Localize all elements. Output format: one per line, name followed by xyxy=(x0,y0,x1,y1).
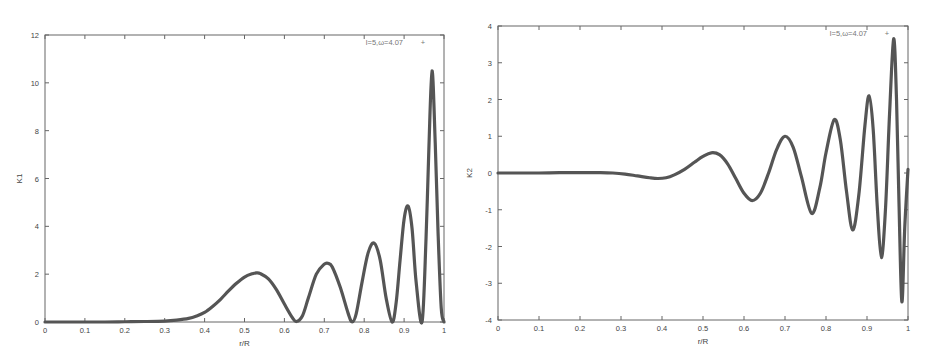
x-tick-label: 0.2 xyxy=(120,326,130,335)
x-axis-label: r/R xyxy=(239,339,250,348)
x-tick-label: 0.3 xyxy=(616,324,626,333)
y-tick-label: -4 xyxy=(485,316,492,325)
x-tick-label: 1 xyxy=(906,324,910,333)
y-axis-label: K2 xyxy=(465,168,474,178)
y-tick-label: 1 xyxy=(488,132,492,141)
y-tick-label: 0 xyxy=(488,169,492,178)
x-tick-label: 0.2 xyxy=(575,324,585,333)
data-series-line xyxy=(45,71,444,323)
data-series-line xyxy=(498,39,908,302)
y-tick-label: 3 xyxy=(488,59,492,68)
x-tick-label: 0.7 xyxy=(319,326,329,335)
x-tick-label: 0.7 xyxy=(780,324,790,333)
x-tick-label: 0.8 xyxy=(359,326,369,335)
x-tick-label: 0.6 xyxy=(279,326,289,335)
x-tick-label: 0.4 xyxy=(657,324,667,333)
x-tick-label: 0.1 xyxy=(534,324,544,333)
x-tick-label: 0.8 xyxy=(821,324,831,333)
x-tick-label: 0.9 xyxy=(399,326,409,335)
y-axis-label: K1 xyxy=(15,173,24,183)
x-tick-label: 0.6 xyxy=(739,324,749,333)
y-tick-label: 4 xyxy=(35,222,39,231)
y-tick-label: 6 xyxy=(35,175,39,184)
y-tick-label: 10 xyxy=(31,79,39,88)
x-tick-label: 0.1 xyxy=(80,326,90,335)
x-axis-label: r/R xyxy=(698,337,709,346)
x-tick-label: 0.9 xyxy=(862,324,872,333)
y-tick-label: 12 xyxy=(31,31,39,40)
y-tick-label: 8 xyxy=(35,127,39,136)
x-tick-label: 0.5 xyxy=(698,324,708,333)
legend-label: l=5,ω=4.07 xyxy=(830,29,867,38)
x-tick-label: 1 xyxy=(442,326,446,335)
y-tick-label: -2 xyxy=(485,243,492,252)
k2-plot-area: 00.10.20.30.40.50.60.70.80.91-4-3-2-1012… xyxy=(460,0,927,362)
k1-chart: 00.10.20.30.40.50.60.70.80.91024681012r/… xyxy=(0,0,460,362)
y-tick-label: 4 xyxy=(488,22,492,31)
legend-marker-icon: + xyxy=(421,38,426,47)
x-tick-label: 0.3 xyxy=(159,326,169,335)
k2-chart: 00.10.20.30.40.50.60.70.80.91-4-3-2-1012… xyxy=(460,0,927,362)
y-tick-label: 2 xyxy=(488,96,492,105)
x-tick-label: 0 xyxy=(496,324,500,333)
legend-label: l=5,ω=4.07 xyxy=(366,38,403,47)
x-tick-label: 0.4 xyxy=(199,326,209,335)
y-tick-label: 0 xyxy=(35,318,39,327)
legend-marker-icon: + xyxy=(885,29,890,38)
y-tick-label: -1 xyxy=(485,206,492,215)
y-tick-label: 2 xyxy=(35,270,39,279)
y-tick-label: -3 xyxy=(485,279,492,288)
k1-plot-area: 00.10.20.30.40.50.60.70.80.91024681012r/… xyxy=(0,0,460,362)
x-tick-label: 0.5 xyxy=(239,326,249,335)
x-tick-label: 0 xyxy=(43,326,47,335)
